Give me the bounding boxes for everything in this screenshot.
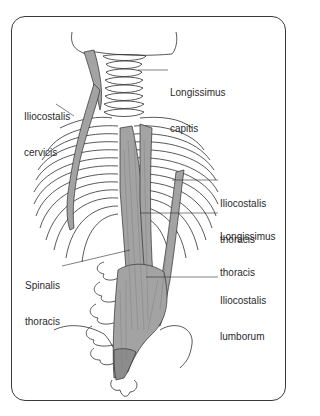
label-line: Iliocostalis [24,111,70,123]
label-longissimus-capitis: Longissimus capitis [170,63,226,147]
cervical-vertebrae [103,55,146,117]
label-line: cervicis [24,147,70,159]
muscle-lower-tendon [114,349,136,380]
label-line: Longissimus [220,231,276,243]
label-spinalis-thoracis: Spinalis thoracis [25,256,60,340]
label-line: lumborum [220,331,266,343]
label-iliocostalis-lumborum: Iliocostalis lumborum [220,271,266,355]
pelvis-right [160,326,192,368]
leader-spinalis-thoracis [62,250,130,266]
label-line: thoracis [25,316,60,328]
coccyx [111,380,137,396]
label-line: Iliocostalis [220,295,266,307]
muscle-iliocostalis-cervicis [67,84,100,230]
label-line: capitis [170,123,226,135]
label-iliocostalis-cervicis: Iliocostalis cervicis [24,87,70,171]
label-line: Spinalis [25,280,60,292]
label-line: Longissimus [170,87,226,99]
pelvis-left [54,326,116,352]
